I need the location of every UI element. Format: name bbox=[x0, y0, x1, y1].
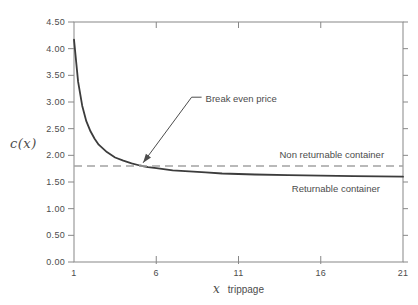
y-tick-label: 0.50 bbox=[46, 230, 65, 240]
y-tick-label: 0.00 bbox=[46, 257, 65, 267]
y-tick-label: 3.00 bbox=[46, 97, 65, 107]
y-axis-title: c(x) bbox=[10, 136, 37, 151]
y-tick-label: 1.50 bbox=[46, 177, 65, 187]
series-label: Returnable container bbox=[292, 183, 380, 194]
x-tick-label: 21 bbox=[398, 268, 409, 278]
y-tick-label: 4.50 bbox=[46, 17, 65, 27]
plot-frame bbox=[74, 22, 403, 262]
y-tick-label: 3.50 bbox=[46, 70, 65, 80]
break-even-label: Break even price bbox=[206, 93, 277, 104]
x-tick-label: 1 bbox=[71, 268, 76, 278]
y-tick-label: 2.50 bbox=[46, 124, 65, 134]
x-tick-label: 11 bbox=[234, 268, 244, 278]
series-label: Non returnable container bbox=[280, 149, 385, 160]
y-tick-label: 2.00 bbox=[46, 150, 65, 160]
trippage-cost-chart-figure: 0.000.501.001.502.002.503.003.504.004.50… bbox=[0, 0, 418, 305]
break-even-arrowhead bbox=[141, 154, 151, 165]
y-tick-label: 1.00 bbox=[46, 204, 65, 214]
chart-svg: 0.000.501.001.502.002.503.003.504.004.50… bbox=[0, 0, 418, 305]
x-tick-label: 16 bbox=[315, 268, 326, 278]
break-even-leader-line bbox=[143, 97, 202, 163]
y-tick-label: 4.00 bbox=[46, 44, 65, 54]
x-axis-title: xtrippage bbox=[213, 282, 264, 296]
x-tick-label: 6 bbox=[154, 268, 159, 278]
